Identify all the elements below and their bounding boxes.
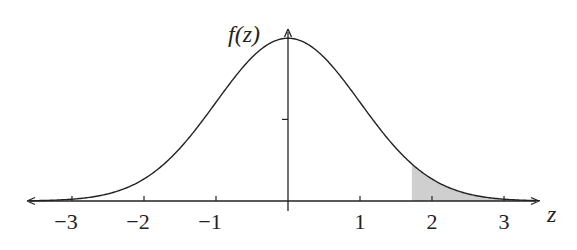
normal-distribution-chart: −3−2−1123 f(z) z xyxy=(0,0,577,250)
x-tick-label: 3 xyxy=(499,209,510,234)
x-tick-label: −3 xyxy=(54,209,77,234)
x-tick-label: 2 xyxy=(427,209,438,234)
x-ticks: −3−2−1123 xyxy=(54,196,509,234)
x-tick-label: −2 xyxy=(126,209,149,234)
x-axis-label: z xyxy=(546,201,557,227)
y-axis-label: f(z) xyxy=(228,21,260,47)
x-tick-label: 1 xyxy=(355,209,366,234)
x-tick-label: −1 xyxy=(198,209,221,234)
